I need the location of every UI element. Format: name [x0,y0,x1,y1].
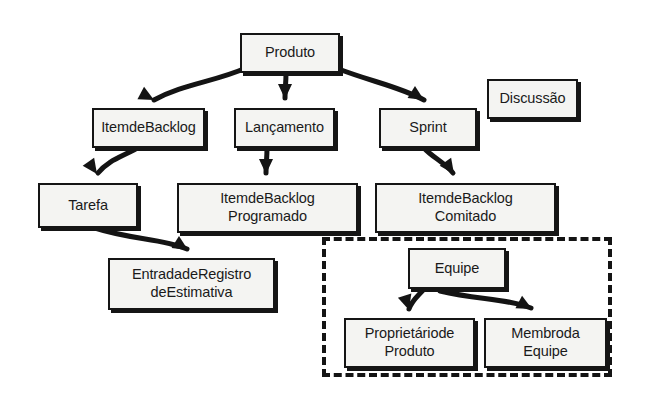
arrowhead-lancamento-to-item-programado [259,159,273,174]
arrowhead-produto-to-lancamento [278,84,292,99]
arrowhead-sprint-to-item-comitado [440,158,460,178]
node-membro[interactable]: Membroda Equipe [484,318,607,368]
node-label: ItemdeBacklog [97,119,200,137]
node-item-programado[interactable]: ItemdeBacklog Programado [177,183,358,233]
node-produto[interactable]: Produto [240,33,340,73]
node-proprietario[interactable]: Proprietáriode Produto [344,318,475,368]
node-item-de-backlog[interactable]: ItemdeBacklog [92,108,205,148]
edge-produto-to-sprint [336,68,424,100]
node-label: Membroda Equipe [507,325,584,360]
arrowhead-item-de-backlog-to-tarefa [83,158,103,178]
node-tarefa[interactable]: Tarefa [38,183,138,228]
arrowhead-produto-to-sprint [408,86,428,106]
node-lancamento[interactable]: Lançamento [234,108,335,148]
node-entrada-estimativa[interactable]: EntradadeRegistro deEstimativa [108,258,275,310]
node-label: ItemdeBacklog Programado [216,190,319,225]
node-label: Sprint [405,119,450,137]
arrowhead-produto-to-item-de-backlog [137,87,157,106]
node-item-comitado[interactable]: ItemdeBacklog Comitado [375,183,556,233]
node-sprint[interactable]: Sprint [379,108,477,148]
node-label: Produto [261,44,319,62]
edge-produto-to-item-de-backlog [154,68,246,100]
node-label: Discussão [496,90,570,108]
diagram-canvas: ProdutoItemdeBacklogLançamentoSprintDisc… [0,0,645,402]
node-label: ItemdeBacklog Comitado [414,190,517,225]
edge-sprint-to-item-comitado [424,148,453,173]
edge-lancamento-to-item-programado [266,148,267,173]
node-label: Tarefa [64,197,112,215]
node-discussao[interactable]: Discussão [487,79,578,119]
node-label: Proprietáriode Produto [361,325,459,360]
arrowhead-tarefa-to-entrada-estimativa [172,236,192,256]
node-equipe[interactable]: Equipe [408,248,506,289]
edge-produto-to-lancamento [285,73,286,98]
node-label: EntradadeRegistro deEstimativa [128,266,255,301]
edge-item-de-backlog-to-tarefa [98,148,137,173]
edge-tarefa-to-entrada-estimativa [95,228,187,249]
node-label: Lançamento [241,119,328,137]
node-label: Equipe [431,260,484,278]
